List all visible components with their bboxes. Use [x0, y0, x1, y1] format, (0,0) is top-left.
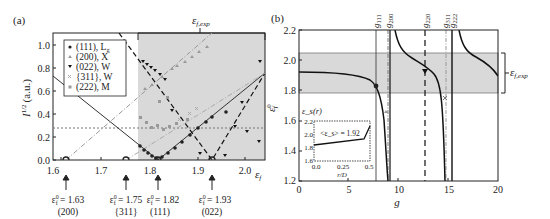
svg-text:1.7: 1.7: [95, 165, 108, 176]
svg-text:0.2: 0.2: [38, 132, 51, 143]
svg-text:1.9: 1.9: [192, 165, 205, 176]
exp-bracket-b: εf,exp: [501, 53, 528, 93]
svg-text:g200: g200: [383, 14, 394, 28]
svg-text:2.0: 2.0: [284, 55, 297, 66]
marker-111-b: [374, 84, 379, 89]
svg-text:ε0f = 1.75: ε0f = 1.75: [110, 194, 143, 206]
svg-text:0.4: 0.4: [38, 109, 51, 120]
svg-text:2.2: 2.2: [284, 25, 297, 36]
inset-xlabel: r/D: [337, 171, 347, 179]
panel-a-label: (a): [13, 14, 26, 27]
svg-text:(111): (111): [150, 207, 170, 218]
annotations-a: ε0f = 1.63 (200) ε0f = 1.75 {311} ε0f = …: [52, 194, 232, 218]
svg-text:0.25: 0.25: [337, 163, 350, 171]
svg-text:5: 5: [347, 184, 352, 195]
legend-a: (111), Lg (200), X (022), W {311}, W (22…: [64, 40, 126, 96]
inset-annotation: <ε_s> = 1.92: [320, 129, 360, 138]
svg-text:0.5: 0.5: [365, 163, 374, 171]
svg-text:0.8: 0.8: [38, 63, 51, 74]
exp-region-shade: [138, 33, 265, 160]
exp-label-b: εf,exp: [510, 66, 528, 80]
panel-b: (b) g111 g200 g220: [265, 12, 528, 208]
svg-text:1.6: 1.6: [284, 115, 297, 126]
svg-text:(022): (022): [202, 207, 223, 218]
svg-text:0.0: 0.0: [312, 163, 321, 171]
legend-311: {311}, W: [76, 72, 113, 82]
svg-text:g220: g220: [420, 14, 431, 28]
legend-222: (222), M: [76, 82, 110, 93]
svg-text:0.6: 0.6: [38, 86, 51, 97]
svg-text:10: 10: [394, 184, 404, 195]
svg-text:1.8: 1.8: [284, 85, 297, 96]
svg-text:15: 15: [444, 184, 454, 195]
vline-labels: g111 g200 g220 g311 g222: [371, 14, 458, 28]
svg-text:20: 20: [493, 184, 503, 195]
inset-ylabel: ε_s(r): [302, 106, 322, 116]
y-ticklabels-b: 1.2 1.4 1.6 1.8 2.0 2.2: [284, 25, 297, 186]
svg-text:(200): (200): [58, 207, 79, 218]
svg-text:2.2: 2.2: [304, 118, 313, 126]
svg-text:1.2: 1.2: [284, 175, 297, 186]
curve-branch-2: [395, 30, 445, 181]
svg-text:{311}: {311}: [114, 207, 137, 217]
svg-text:1.0: 1.0: [38, 40, 51, 51]
marker-200-b: [384, 110, 388, 113]
inset: ε_s(r) 1.6 1.8 2.0 2.2 0.0 0.25 0.5 r/D …: [302, 106, 374, 179]
svg-text:2.0: 2.0: [239, 165, 252, 176]
annotation-arrows: [63, 175, 215, 190]
exp-label-a: εf,exp: [192, 14, 210, 28]
y-axis-label-a: I1/2(a.u.): [20, 79, 33, 118]
svg-text:g111: g111: [371, 14, 382, 28]
y-axis-label-b: ε0f: [265, 104, 279, 112]
svg-text:ε0f = 1.63: ε0f = 1.63: [52, 194, 85, 206]
svg-text:1.8: 1.8: [144, 165, 157, 176]
figure: (a) εf,exp: [0, 0, 550, 219]
svg-text:1.4: 1.4: [284, 145, 297, 156]
x-axis-label-a: εf: [255, 168, 262, 182]
svg-text:1.8: 1.8: [304, 144, 313, 152]
svg-text:ε0f = 1.82: ε0f = 1.82: [147, 194, 180, 206]
x-ticklabels-b: 0 5 10 15 20: [297, 184, 504, 195]
x-axis-label-b: g: [394, 196, 400, 208]
x-ticklabels-a: 1.6 1.7 1.8 1.9 2.0: [47, 165, 252, 176]
inset-yticks: 1.6 1.8 2.0 2.2: [304, 118, 313, 165]
y-ticklabels-a: 0.0 0.2 0.4 0.6 0.8 1.0: [38, 40, 51, 166]
inset-xticks: 0.0 0.25 0.5: [312, 163, 374, 171]
svg-text:ε0f = 1.93: ε0f = 1.93: [199, 194, 232, 206]
svg-text:1.6: 1.6: [47, 165, 60, 176]
panel-b-label: (b): [271, 12, 284, 25]
panel-a: (a) εf,exp: [13, 14, 265, 218]
svg-text:2.0: 2.0: [304, 131, 313, 139]
svg-text:0: 0: [297, 184, 302, 195]
